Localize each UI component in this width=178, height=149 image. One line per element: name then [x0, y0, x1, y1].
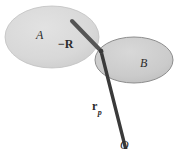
origin-label: O	[120, 139, 129, 149]
diagram-canvas	[0, 0, 178, 149]
body-b-label: B	[140, 57, 148, 69]
body-a-label: A	[36, 29, 44, 41]
vector-r-symbol: r	[92, 99, 97, 113]
contact-point-marker	[99, 49, 103, 53]
vector-r-symbol: R	[65, 37, 74, 51]
vector-rp-label: rp	[92, 100, 101, 115]
vector-minus-r-label: −R	[58, 38, 74, 50]
vector-diagram-figure: A B −R rp O	[0, 0, 178, 149]
vector-rp-subscript: p	[98, 108, 102, 117]
minus-sign: −	[58, 37, 65, 51]
